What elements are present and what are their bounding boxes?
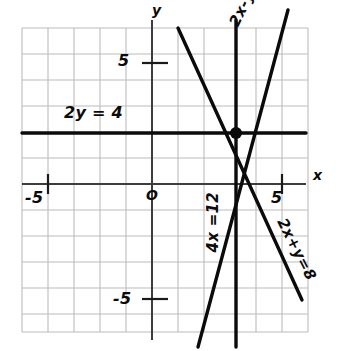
equation-label-4x-equals-12: 4x =12 xyxy=(206,192,221,253)
line-2x-plus-y-equals-8 xyxy=(178,28,302,300)
x-axis-tick-label-minus-5: -5 xyxy=(25,190,43,206)
x-axis-label: x xyxy=(313,168,322,182)
y-axis-tick-label-5: 5 xyxy=(118,53,129,69)
y-axis-label: y xyxy=(152,3,161,17)
y-axis-tick-label-minus-5: -5 xyxy=(113,291,131,307)
line-2x-minus-y-equals-4 xyxy=(198,10,288,347)
equation-label-2y-equals-4: 2y = 4 xyxy=(64,105,123,121)
axis-lines xyxy=(22,20,306,340)
graph-figure: 2y = 4 2x-y=4 4x =12 2x+y=8 5 -5 -5 5 O … xyxy=(0,0,340,351)
origin-label: O xyxy=(146,188,158,202)
x-axis-tick-label-5: 5 xyxy=(271,190,282,206)
grid-lines xyxy=(22,28,308,332)
intersection-point-marker xyxy=(230,127,242,139)
graph-canvas xyxy=(0,0,340,351)
